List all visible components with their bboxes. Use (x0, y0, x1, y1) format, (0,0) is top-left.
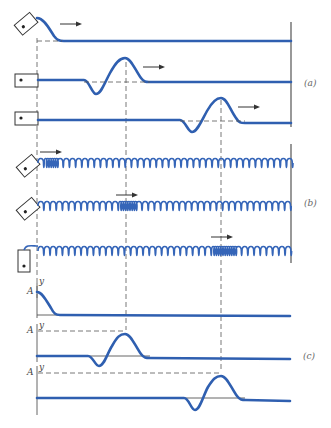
spring-coil-2 (38, 202, 291, 211)
arrow-right-icon (227, 235, 233, 240)
string-row-3 (15, 98, 291, 132)
y-axis-label-2: y (39, 320, 44, 330)
arrow-right-icon (132, 193, 138, 198)
string-row-1 (14, 12, 291, 41)
spring-coil-3 (38, 247, 292, 256)
arrow-right-icon (76, 22, 82, 27)
panel-label-c: (c) (303, 351, 315, 361)
y-axis-label-1: y (39, 276, 44, 286)
wave-pulse-figure (0, 0, 331, 428)
graph-wave-1 (37, 292, 290, 316)
graph-wave-3 (37, 376, 290, 410)
amplitude-label-3: A (27, 367, 34, 377)
graph-row-1 (37, 283, 290, 318)
y-axis-label-3: y (39, 362, 44, 372)
string-wave-2 (38, 58, 291, 94)
arrow-right-icon (254, 105, 260, 110)
rotated-handle (16, 154, 40, 177)
spring-coil-1 (38, 159, 293, 168)
amplitude-label-1: A (27, 286, 34, 296)
string-wave-1 (37, 18, 291, 41)
spring-row-3 (18, 235, 292, 273)
graph-wave-2 (37, 334, 290, 366)
upright-handle (18, 250, 30, 272)
graph-row-3 (37, 366, 290, 415)
amplitude-label-2: A (27, 325, 34, 335)
spring-row-1 (16, 150, 293, 178)
rotated-handle (16, 197, 40, 220)
panel-b (16, 150, 293, 273)
rotated-handle (14, 12, 38, 35)
panel-a (14, 12, 291, 132)
graph-row-2 (37, 324, 290, 366)
block-handle (15, 74, 38, 87)
string-row-2 (15, 58, 291, 94)
string-wave-3 (38, 98, 291, 132)
panel-c (37, 283, 290, 415)
arrow-right-icon (159, 65, 165, 70)
block-handle (15, 112, 38, 125)
arrow-right-icon (56, 150, 62, 155)
spring-row-2 (16, 193, 291, 221)
panel-label-b: (b) (304, 198, 317, 208)
panel-label-a: (a) (304, 78, 316, 88)
